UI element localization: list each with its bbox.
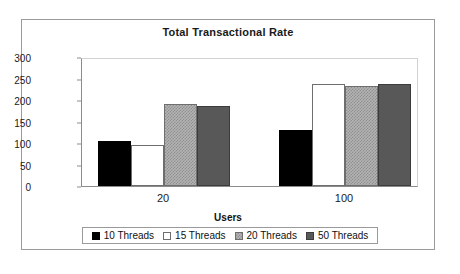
legend-item-10-threads: 10 Threads <box>92 230 154 241</box>
bar-10-threads-20 <box>98 141 131 186</box>
y-tick-label-250: 250 <box>0 74 31 85</box>
bar-15-threads-100 <box>312 84 345 186</box>
legend-swatch-icon-50-threads <box>306 232 314 240</box>
bar-15-threads-20 <box>131 145 164 186</box>
legend-swatch-icon-20-threads <box>235 232 243 240</box>
chart-legend: 10 Threads 15 Threads 20 Threads 50 Thre… <box>82 227 378 244</box>
y-tick-label-50: 50 <box>0 160 31 171</box>
legend-label-20-threads: 20 Threads <box>247 230 297 241</box>
legend-label-15-threads: 15 Threads <box>175 230 225 241</box>
y-tick-label-200: 200 <box>0 96 31 107</box>
x-axis-title: Users <box>22 212 434 223</box>
y-tick-label-0: 0 <box>0 182 31 193</box>
x-tick-label-100: 100 <box>335 192 353 204</box>
bar-50-threads-20 <box>197 106 230 186</box>
bar-50-threads-100 <box>378 84 411 186</box>
legend-swatch-icon-15-threads <box>163 232 171 240</box>
chart-image: Total Transactional Rate Transactions pe… <box>0 0 460 274</box>
y-tick-label-300: 300 <box>0 53 31 64</box>
legend-label-50-threads: 50 Threads <box>318 230 368 241</box>
legend-swatch-icon-10-threads <box>92 232 100 240</box>
bars-container <box>82 59 417 186</box>
legend-item-20-threads: 20 Threads <box>235 230 297 241</box>
bar-20-threads-20 <box>164 104 197 186</box>
legend-item-15-threads: 15 Threads <box>163 230 225 241</box>
legend-label-10-threads: 10 Threads <box>104 230 154 241</box>
chart-title: Total Transactional Rate <box>22 26 434 38</box>
bar-10-threads-100 <box>279 130 312 186</box>
chart-frame: Total Transactional Rate Transactions pe… <box>21 19 435 250</box>
legend-item-50-threads: 50 Threads <box>306 230 368 241</box>
y-tick-label-150: 150 <box>0 117 31 128</box>
bar-20-threads-100 <box>345 86 378 186</box>
y-tick-label-100: 100 <box>0 139 31 150</box>
plot-area <box>81 58 418 187</box>
x-tick-label-20: 20 <box>157 192 169 204</box>
